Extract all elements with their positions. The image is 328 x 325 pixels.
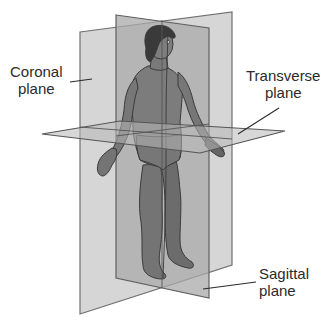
transverse-label-line2: plane — [246, 84, 320, 101]
transverse-plane — [42, 121, 285, 153]
sagittal-label-line1: Sagittal — [259, 265, 309, 282]
sagittal-label-line2: plane — [259, 282, 309, 299]
coronal-label-line2: plane — [10, 80, 63, 97]
coronal-label-line1: Coronal — [10, 63, 63, 80]
coronal-plane-label: Coronal plane — [10, 63, 63, 97]
sagittal-leader-line — [203, 282, 256, 289]
transverse-plane-label: Transverse plane — [246, 67, 320, 101]
anatomical-planes-diagram: Coronal plane Transverse plane Sagittal … — [0, 0, 328, 325]
sagittal-plane-label: Sagittal plane — [259, 265, 309, 299]
transverse-label-line1: Transverse — [246, 67, 320, 84]
